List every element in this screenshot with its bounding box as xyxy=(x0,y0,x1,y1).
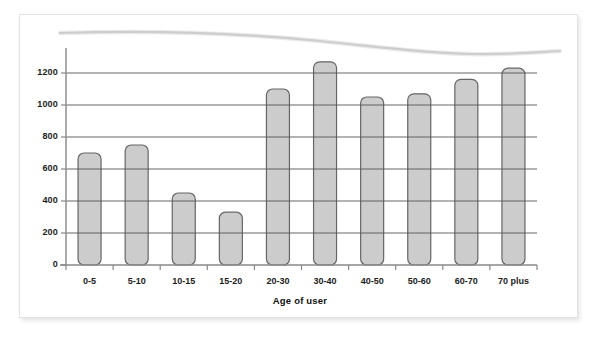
bars-group xyxy=(78,62,525,265)
y-tick-label-400: 400 xyxy=(20,195,58,205)
chart-page: 020040060080010001200 0-55-1010-1515-202… xyxy=(0,0,600,346)
bar-60-70 xyxy=(455,79,478,265)
scan-artifact-curve xyxy=(60,32,560,54)
x-axis xyxy=(60,265,537,270)
bar-15-20 xyxy=(219,212,242,265)
bar-0-5 xyxy=(78,153,101,265)
y-tick-label-1000: 1000 xyxy=(20,99,58,109)
y-tick-label-800: 800 xyxy=(20,131,58,141)
y-tick-label-1200: 1200 xyxy=(20,67,58,77)
bar-5-10 xyxy=(125,145,148,265)
bar-20-30 xyxy=(266,89,289,265)
y-tick-label-600: 600 xyxy=(20,163,58,173)
x-tick-label-70-plus: 70 plus xyxy=(483,276,543,286)
y-tick-label-200: 200 xyxy=(20,227,58,237)
bar-50-60 xyxy=(408,94,431,265)
bar-70-plus xyxy=(502,68,525,265)
x-axis-title: Age of user xyxy=(0,295,600,306)
y-axis xyxy=(61,48,66,265)
y-tick-label-0: 0 xyxy=(20,259,58,269)
bar-40-50 xyxy=(361,97,384,265)
bar-10-15 xyxy=(172,193,195,265)
bar-30-40 xyxy=(314,62,337,265)
